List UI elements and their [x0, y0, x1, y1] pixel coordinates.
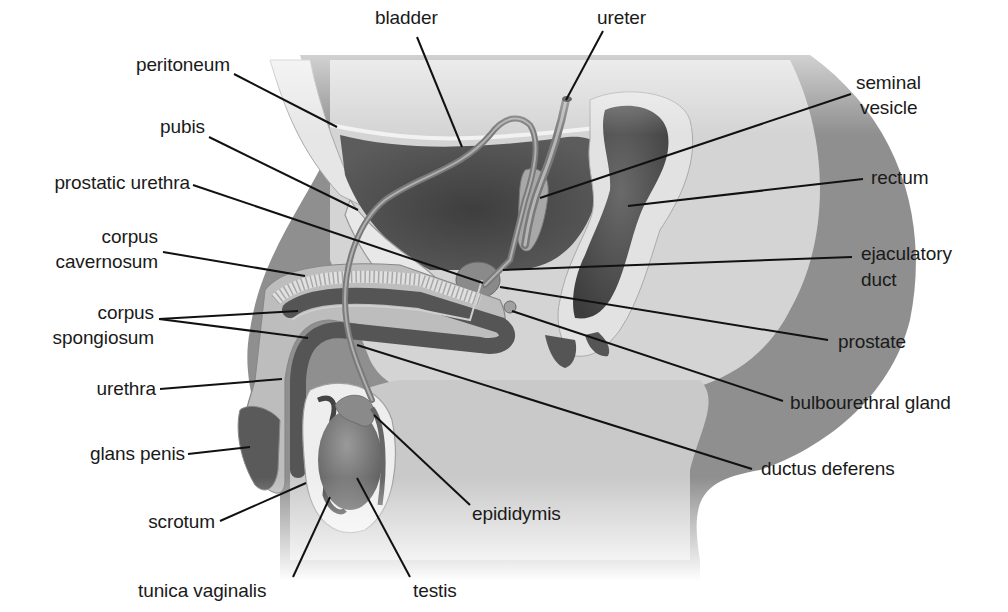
- label-prostate: prostate: [838, 331, 906, 353]
- label-ureter: ureter: [597, 7, 646, 29]
- label-bulbourethral-gland: bulbourethral gland: [790, 392, 951, 414]
- label-epididymis: epididymis: [472, 503, 561, 525]
- label-peritoneum: peritoneum: [110, 54, 230, 76]
- label-prostatic-urethra: prostatic urethra: [10, 172, 190, 194]
- label-ductus-deferens: ductus deferens: [761, 458, 895, 480]
- label-scrotum: scrotum: [60, 511, 215, 533]
- label-corpus-spongiosum-line2: spongiosum: [10, 327, 154, 349]
- label-corpus-cavernosum-line1: corpus: [10, 226, 158, 248]
- label-ejaculatory-duct-line2: duct: [861, 269, 897, 291]
- label-seminal-vesicle-line2: vesicle: [860, 97, 917, 119]
- label-rectum: rectum: [871, 167, 928, 189]
- label-corpus-spongiosum-line1: corpus: [10, 302, 154, 324]
- label-urethra: urethra: [10, 378, 156, 400]
- label-corpus-cavernosum-line2: cavernosum: [10, 251, 158, 273]
- label-seminal-vesicle-line1: seminal: [856, 72, 921, 94]
- label-glans-penis: glans penis: [10, 443, 185, 465]
- anatomy-diagram: bladder ureter peritoneum pubis prostati…: [0, 0, 1008, 612]
- label-ejaculatory-duct-line1: ejaculatory: [861, 243, 952, 265]
- label-testis: testis: [413, 580, 457, 602]
- label-tunica-vaginalis: tunica vaginalis: [138, 580, 266, 602]
- label-pubis: pubis: [110, 116, 205, 138]
- label-bladder: bladder: [375, 7, 438, 29]
